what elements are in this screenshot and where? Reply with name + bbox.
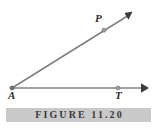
- point-p-dot: [102, 28, 106, 32]
- point-label-a: A: [8, 90, 15, 101]
- diagonal-ray-arrowhead: [125, 12, 133, 20]
- figure-container: A T P FIGURE 11.20: [0, 0, 161, 130]
- figure-caption-text: FIGURE 11.20: [33, 110, 124, 120]
- point-label-t: T: [115, 90, 122, 101]
- point-label-p: P: [95, 13, 102, 24]
- diagonal-ray-line: [12, 16, 128, 88]
- horizontal-ray-arrowhead: [141, 83, 149, 93]
- figure-caption-bar: FIGURE 11.20: [6, 108, 151, 122]
- angle-diagram: [0, 0, 161, 106]
